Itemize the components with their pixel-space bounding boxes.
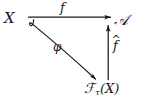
commutative-diagram: X 𝒜 ℱτ(X) f φ ^f xyxy=(0,0,142,103)
node-script-a: 𝒜 xyxy=(114,13,128,28)
script-f-glyph: ℱ xyxy=(84,80,95,96)
paren-x-suffix: (X) xyxy=(100,81,119,96)
hat-accent: ^ xyxy=(112,34,121,45)
node-f-tau-x: ℱτ(X) xyxy=(84,81,119,97)
arrow-label-f: f xyxy=(60,1,65,14)
arrow-label-f-hat: ^f xyxy=(113,39,118,52)
arrow-phi xyxy=(29,20,95,79)
arrow-label-phi: φ xyxy=(53,41,61,53)
f-hat-wrapper: ^f xyxy=(113,39,118,52)
tau-subscript: τ xyxy=(95,88,99,97)
node-x: X xyxy=(4,11,15,26)
